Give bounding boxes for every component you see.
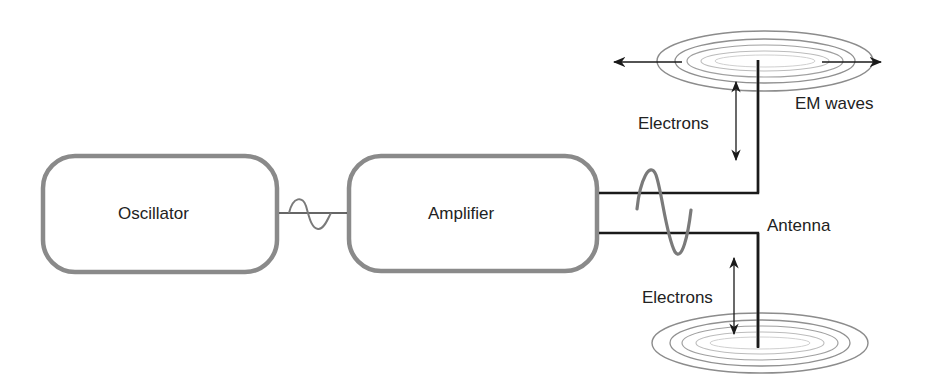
em-waves-label: EM waves [795, 95, 873, 112]
em-waves-top [657, 31, 873, 91]
amplified-sine-wave-icon [637, 170, 691, 254]
electrons-top-label: Electrons [638, 115, 709, 132]
small-sine-wave-icon [289, 199, 331, 229]
oscillator-amplifier-link [279, 199, 347, 229]
antenna-label: Antenna [767, 217, 830, 234]
em-waves-bottom [652, 313, 868, 373]
electrons-bottom-label: Electrons [642, 289, 713, 306]
diagram-canvas [0, 0, 927, 386]
amplifier-label: Amplifier [428, 205, 494, 222]
oscillator-label: Oscillator [118, 205, 189, 222]
